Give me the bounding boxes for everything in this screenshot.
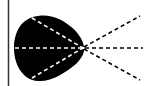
- outer-ray-lower: [84, 49, 140, 80]
- outer-ray-upper: [84, 16, 140, 47]
- outer-rays: [84, 16, 143, 80]
- focal-point-marker: [82, 47, 84, 49]
- diagram-canvas: [0, 0, 145, 86]
- ray-diagram: [0, 0, 145, 86]
